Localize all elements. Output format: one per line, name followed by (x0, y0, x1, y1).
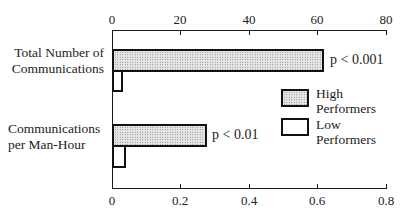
category-label-line: Communications (12, 61, 104, 77)
legend-label-high-performers: High Performers (316, 86, 376, 116)
bottom-tick-0.8 (386, 184, 387, 189)
top-tick-40 (249, 30, 250, 35)
bar-high-communications-per-man-hour (112, 124, 207, 147)
category-label-line: Total Number of (12, 45, 104, 61)
category-label-line: Communications (8, 121, 104, 137)
bar-low-total-communications (112, 70, 123, 92)
bottom-tick-label: 0.8 (378, 194, 394, 207)
bottom-tick-label: 0.6 (309, 194, 325, 207)
top-tick-0 (112, 30, 113, 35)
bottom-tick-0.6 (317, 184, 318, 189)
p-value-annotation: p < 0.001 (330, 52, 383, 68)
bottom-tick-label: 0.4 (241, 194, 257, 207)
top-tick-label: 60 (311, 13, 324, 26)
legend-label-line: Low (316, 117, 376, 132)
legend-swatch-high-performers (281, 89, 309, 107)
category-label-line: per Man-Hour (8, 137, 104, 153)
top-tick-label: 20 (174, 13, 187, 26)
top-tick-20 (180, 30, 181, 35)
top-tick-label: 40 (243, 13, 256, 26)
bottom-tick-0.2 (180, 184, 181, 189)
top-tick-60 (317, 30, 318, 35)
bar-low-communications-per-man-hour (112, 145, 126, 168)
bottom-tick-0 (112, 184, 113, 189)
legend-label-line: Performers (316, 101, 376, 116)
bar-high-total-communications (112, 49, 324, 72)
legend-label-line: Performers (316, 132, 376, 147)
p-value-annotation: p < 0.01 (212, 127, 258, 143)
legend-label-line: High (316, 86, 376, 101)
top-tick-80 (386, 30, 387, 35)
legend-label-low-performers: Low Performers (316, 117, 376, 147)
bottom-tick-0.4 (249, 184, 250, 189)
category-label-total-communications: Total Number of Communications (12, 45, 104, 77)
bottom-tick-label: 0 (109, 194, 116, 207)
category-label-communications-per-man-hour: Communications per Man-Hour (8, 121, 104, 153)
top-tick-label: 0 (109, 13, 116, 26)
top-tick-label: 80 (380, 13, 393, 26)
bottom-tick-label: 0.2 (172, 194, 188, 207)
legend-swatch-low-performers (281, 118, 309, 136)
